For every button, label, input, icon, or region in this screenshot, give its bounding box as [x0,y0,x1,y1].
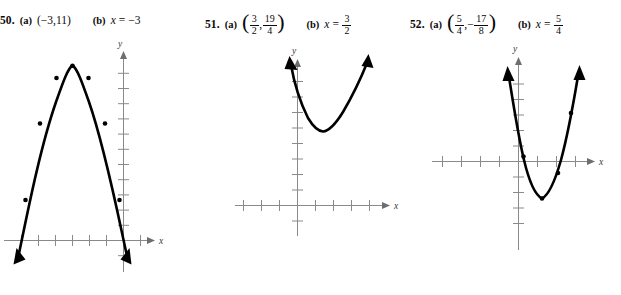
problem-52-plotted-points [521,111,573,201]
problem-52-part-b-numerator: 5 [554,14,563,26]
problem-50-part-b-value: −3 [128,14,140,26]
problem-50-part-a-label: (a) [20,15,32,26]
problem-50-x-axis-arrowhead [147,237,155,244]
problem-51-part-b-label: (b) [306,19,319,30]
problem-50-answer-line: 50.(a)(−3,11)(b)x=−3 [0,14,205,42]
problem-51-left-arrowhead [285,56,298,70]
problem-50-part-b-label: (b) [93,15,106,26]
problem-50-part-b-var: x [111,14,116,26]
problem-52-y-axis-arrowhead [515,57,522,65]
problem-51-number: 51. [205,18,220,30]
problem-50-x-axis-label: x [158,236,164,246]
problem-52-vertex-x-numerator: 5 [455,14,464,26]
problem-50-y-axis-label: y [117,40,123,49]
problem-52-vertex-x-fraction: 54 [455,14,464,37]
problem-52-vertex-y-denominator: 8 [474,26,488,37]
problem-52-right-arrowhead [574,65,586,80]
problem-50-part-a-value: (−3,11) [37,14,71,26]
problem-52-number: 52. [410,18,425,30]
problem-50-svg: x y [0,40,205,295]
problem-51-part-b-numerator: 3 [342,14,351,26]
problem-51-part-b-equals: = [332,18,339,30]
problem-50-y-axis-arrowhead [120,51,127,59]
problem-51-x-axis-label: x [393,201,399,211]
problem-52-svg: x y [410,40,621,295]
problem-52-x-axis-label: x [598,157,604,167]
problem-51-vertex-y-numerator: 19 [263,14,277,26]
problem-52-part-b-denominator: 4 [554,26,563,37]
problem-50-parabola-curve [19,66,128,257]
problem-52-panel: 52.(a)(54,−178)(b)x=54 x y [410,0,621,295]
problem-52-graph: x y [410,40,621,295]
problem-51-part-b-fraction: 32 [342,14,351,37]
problem-52-parabola-curve [509,76,578,199]
problem-51-vertex-y-denominator: 4 [263,26,277,37]
problem-51-answer-line: 51.(a)(32,194)(b)x=32 [205,14,410,42]
problem-52-left-arrowhead [503,66,515,81]
problem-51-vertex-x-fraction: 32 [250,14,259,37]
problem-52-y-axis-label: y [512,44,518,54]
problem-50-panel: 50.(a)(−3,11)(b)x=−3 x y [0,0,205,295]
problem-51-vertex-y-fraction: 194 [263,14,277,37]
problem-52-answer-line: 52.(a)(54,−178)(b)x=54 [410,14,621,42]
problem-50-number: 50. [0,14,15,26]
problem-52-x-axis-arrowhead [587,158,595,165]
problem-52-vertex-y-minus: − [467,18,474,30]
problem-52-part-b-fraction: 54 [554,14,563,37]
problem-50-plotted-points [23,64,122,203]
problem-51-part-a-label: (a) [225,19,237,30]
problem-51-svg: x y [205,40,410,295]
problem-51-graph: x y [205,40,410,295]
problem-51-y-axis-label: y [291,46,297,56]
problem-51-panel: 51.(a)(32,194)(b)x=32 x y [205,0,410,295]
problem-51-vertex-x-denominator: 2 [250,26,259,37]
problem-52-part-a-label: (a) [430,19,442,30]
problem-51-part-b-var: x [324,18,329,30]
problem-52-part-b-equals: = [544,18,551,30]
problem-52-vertex-x-denominator: 4 [455,26,464,37]
problem-51-x-axis-arrowhead [382,202,390,209]
problem-51-vertex-x-numerator: 3 [250,14,259,26]
problem-51-right-arrowhead [362,54,374,68]
problem-50-graph: x y [0,40,205,295]
problem-52-vertex-y-numerator: 17 [474,14,488,26]
problem-51-part-b-denominator: 2 [342,26,351,37]
problem-52-part-b-var: x [536,18,541,30]
problem-52-vertex-y-fraction: 178 [474,14,488,37]
problem-52-part-b-label: (b) [518,19,531,30]
problem-50-part-b-equals: = [119,14,126,26]
